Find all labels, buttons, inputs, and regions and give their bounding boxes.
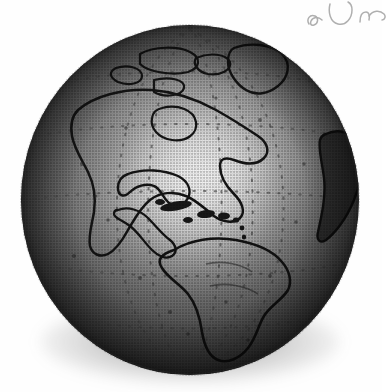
globe-svg xyxy=(20,24,360,376)
globe-illustration xyxy=(20,24,360,376)
